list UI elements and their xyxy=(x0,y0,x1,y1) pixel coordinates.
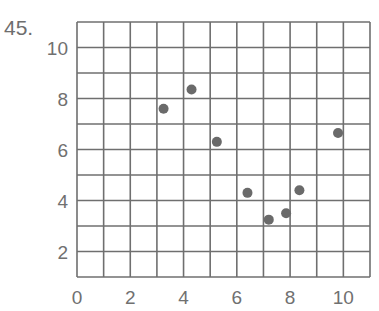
data-point xyxy=(242,188,252,198)
x-tick-label: 8 xyxy=(285,287,296,308)
x-tick-label: 6 xyxy=(232,287,243,308)
y-tick-label: 2 xyxy=(57,242,68,263)
x-axis-ticks: 0246810 xyxy=(72,287,354,308)
x-tick-label: 0 xyxy=(72,287,83,308)
x-tick-label: 10 xyxy=(333,287,354,308)
data-point xyxy=(294,185,304,195)
data-point xyxy=(159,104,169,114)
y-tick-label: 6 xyxy=(57,140,68,161)
scatter-plot: 246810 0246810 xyxy=(0,0,379,311)
data-points xyxy=(159,85,343,225)
y-tick-label: 8 xyxy=(57,89,68,110)
data-point xyxy=(187,85,197,95)
data-point xyxy=(333,128,343,138)
x-tick-label: 2 xyxy=(125,287,136,308)
y-tick-label: 4 xyxy=(57,191,68,212)
y-tick-label: 10 xyxy=(47,38,68,59)
grid-lines xyxy=(77,22,370,277)
y-axis-ticks: 246810 xyxy=(47,38,69,263)
data-point xyxy=(264,215,274,225)
data-point xyxy=(212,137,222,147)
data-point xyxy=(281,208,291,218)
x-tick-label: 4 xyxy=(178,287,189,308)
